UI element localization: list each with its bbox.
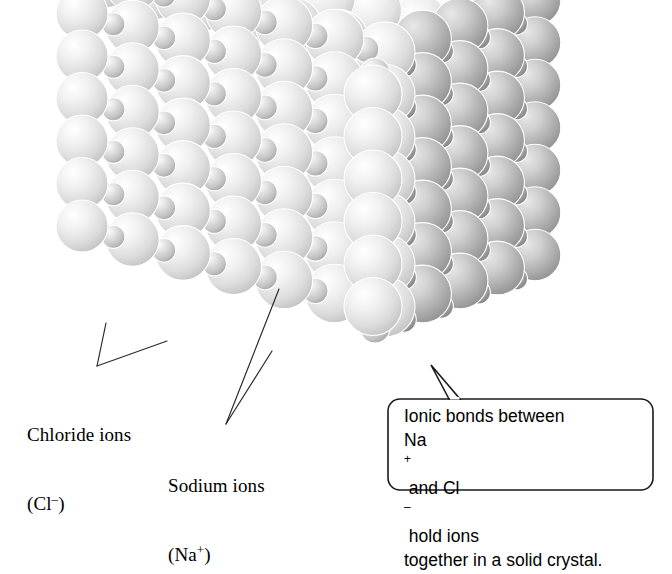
callout-text: Ionic bonds between Na+ and Cl– hold ion…	[404, 404, 648, 572]
callout-line-1: Ionic bonds between	[404, 404, 648, 428]
chloride-ions-formula: (Cl–)	[27, 492, 131, 515]
sodium-ions-name: Sodium ions	[168, 474, 265, 497]
callout-line-2: Na+ and Cl– hold ions	[404, 428, 648, 548]
sodium-ions-label: Sodium ions (Na+)	[168, 428, 265, 574]
callout-bubble-tail	[431, 365, 460, 399]
chloride-ions-name: Chloride ions	[27, 423, 131, 446]
callout-line-3: together in a solid crystal.	[404, 548, 648, 572]
sodium-ions-formula: (Na+)	[168, 543, 265, 566]
chloride-ions-label: Chloride ions (Cl–)	[27, 377, 131, 561]
